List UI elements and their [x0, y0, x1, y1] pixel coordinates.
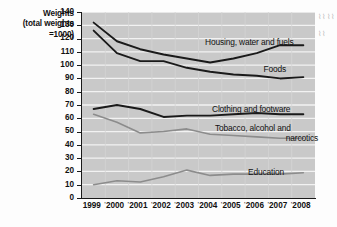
y-axis-line: [81, 12, 82, 199]
series-label-4: narcotics: [286, 134, 318, 144]
x-axis-line: [81, 198, 316, 199]
y-axis-tick-50: 50: [48, 127, 74, 135]
x-axis-separator: ': [151, 200, 153, 209]
y-axis-tick-0: 0: [48, 194, 74, 202]
series-label-0: Housing, water and fuels: [205, 38, 294, 48]
x-axis-tick-2005: 2005: [222, 201, 240, 210]
x-axis-tick-2008: 2008: [292, 201, 310, 210]
y-axis-tickmark-60: [77, 118, 81, 119]
x-axis-separator: ': [221, 200, 223, 209]
y-axis-tick-70: 70: [48, 101, 74, 109]
x-axis-tick-2001: 2001: [129, 201, 147, 210]
series-label-2: Clothing and footware: [212, 105, 290, 115]
x-axis-separator: ': [267, 200, 269, 209]
x-axis-separator: ': [198, 200, 200, 209]
series-label-5: Education: [248, 168, 284, 178]
y-axis-tickmark-90: [77, 78, 81, 79]
y-axis-tickmark-130: [77, 25, 81, 26]
x-axis-separator: ': [291, 200, 293, 209]
y-axis-tickmark-50: [77, 132, 81, 133]
y-axis-tick-100: 100: [48, 61, 74, 69]
y-axis-tickmark-120: [77, 39, 81, 40]
y-axis-tickmark-20: [77, 171, 81, 172]
y-axis-tick-110: 110: [48, 48, 74, 56]
y-axis-tickmark-10: [77, 185, 81, 186]
y-axis-tick-10: 10: [48, 181, 74, 189]
y-axis-tickmark-80: [77, 92, 81, 93]
y-axis-tickmark-110: [77, 52, 81, 53]
x-axis-tick-2004: 2004: [199, 201, 217, 210]
chart-figure: Weights (total weights =1000) 0102030405…: [0, 0, 337, 227]
x-axis-separator: ': [174, 200, 176, 209]
y-axis-tick-80: 80: [48, 88, 74, 96]
y-axis-tick-140: 140: [48, 8, 74, 16]
y-axis-tick-40: 40: [48, 141, 74, 149]
y-axis-tickmark-0: [77, 198, 81, 199]
y-axis-tick-120: 120: [48, 34, 74, 42]
x-axis-separator: ': [104, 200, 106, 209]
x-axis-tick-2003: 2003: [176, 201, 194, 210]
x-axis-tick-2000: 2000: [106, 201, 124, 210]
x-axis-tick-2002: 2002: [153, 201, 171, 210]
x-axis-separator: ': [128, 200, 130, 209]
y-axis-tickmark-30: [77, 158, 81, 159]
y-axis-tickmark-70: [77, 105, 81, 106]
y-axis-tick-90: 90: [48, 74, 74, 82]
y-axis-tick-60: 60: [48, 114, 74, 122]
series-label-1: Foods: [263, 65, 286, 75]
y-axis-tickmark-100: [77, 65, 81, 66]
x-axis-separator: ': [244, 200, 246, 209]
x-axis-tick-2007: 2007: [269, 201, 287, 210]
page-bleed-text: ⌇ ⌇ ⌇ ⌇ ⌇ ⌇: [318, 8, 336, 112]
y-axis-tickmark-40: [77, 145, 81, 146]
y-axis-tick-30: 30: [48, 154, 74, 162]
y-axis-tick-130: 130: [48, 21, 74, 29]
series-label-3: Tobacco, alcohol and: [215, 124, 291, 134]
x-axis-tick-1999: 1999: [83, 201, 101, 210]
x-axis-tick-2006: 2006: [246, 201, 264, 210]
y-axis-tick-20: 20: [48, 167, 74, 175]
y-axis-tickmark-140: [77, 12, 81, 13]
